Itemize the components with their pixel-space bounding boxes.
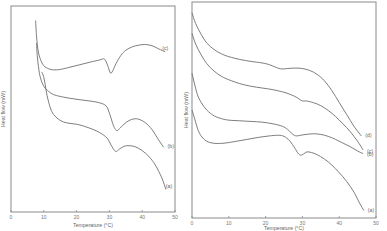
left-series-labels: (c)(b)(a) [162, 45, 174, 190]
left-plot-frame [11, 6, 175, 212]
x-tick-label: 40 [336, 220, 342, 226]
left-y-axis-label: Heat flow (mW) [0, 91, 6, 127]
series-label-c: (c) [162, 45, 168, 51]
x-tick-label: 10 [41, 214, 47, 220]
x-tick-label: 50 [172, 214, 178, 220]
x-tick-label: 40 [139, 214, 145, 220]
x-tick-label: 20 [74, 214, 80, 220]
left-curves [36, 20, 166, 189]
dsc-thermogram-figure: 01020304050 (c)(b)(a) Temperature (°C) H… [0, 0, 387, 231]
right-curves [192, 13, 364, 211]
left-panel: 01020304050 (c)(b)(a) Temperature (°C) H… [0, 6, 178, 228]
x-tick-label: 30 [107, 214, 113, 220]
left-x-axis-label: Temperature (°C) [73, 222, 113, 228]
x-tick-label: 0 [191, 220, 194, 226]
series-label-b: (b) [367, 151, 374, 157]
series-line-b [37, 43, 164, 147]
series-label-d: (d) [365, 132, 372, 138]
x-tick-label: 50 [373, 220, 379, 226]
x-tick-label: 0 [10, 214, 13, 220]
right-x-axis-label: Temperature (°C) [264, 225, 304, 231]
right-series-labels: (d)(c)(b)(a) [365, 132, 374, 214]
series-label-a: (a) [368, 207, 375, 213]
x-tick-label: 10 [226, 220, 232, 226]
series-label-b: (b) [168, 143, 175, 149]
right-panel: 01020304050 (d)(c)(b)(a) Temperature (°C… [183, 2, 379, 231]
series-line-c [36, 20, 166, 73]
series-line-b [192, 73, 363, 153]
right-y-axis-label: Heat flow (mW) [183, 92, 189, 128]
series-line-c [192, 33, 363, 150]
right-plot-frame [192, 2, 376, 218]
series-label-a: (a) [166, 183, 173, 189]
series-line-a [42, 72, 166, 189]
